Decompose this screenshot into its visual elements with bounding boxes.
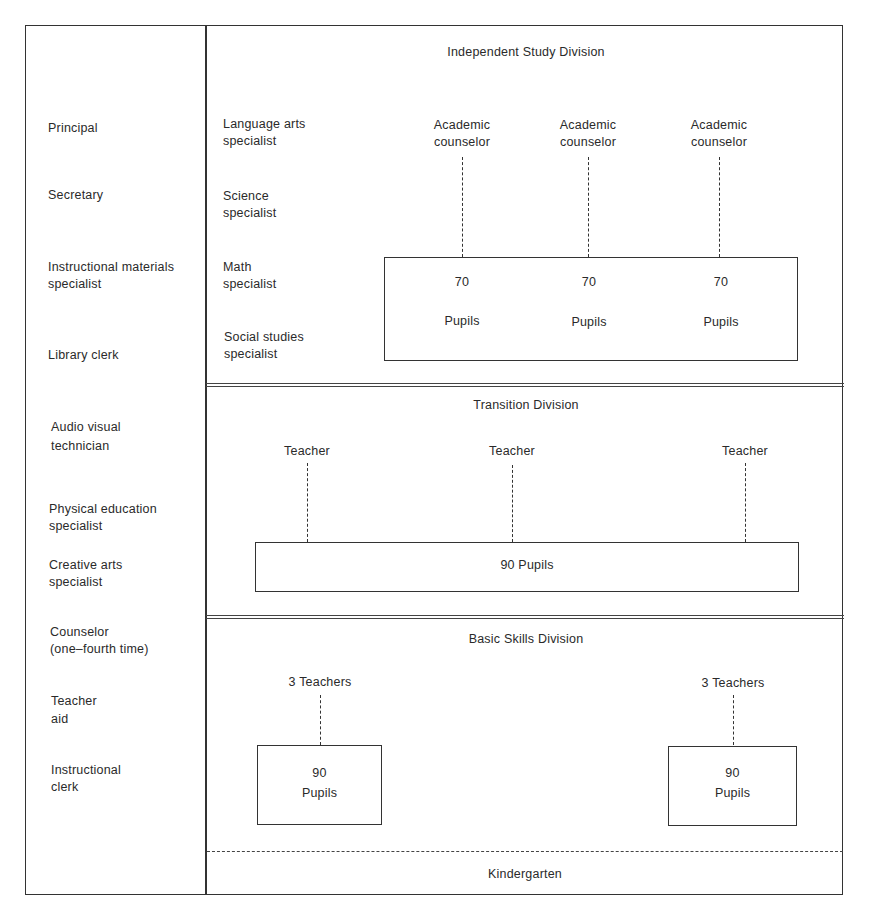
pupil-count-1: 70	[432, 274, 492, 291]
staff-teacher-aid: Teacher aid	[51, 692, 97, 728]
basic-pupil-unit-1: Pupils	[257, 783, 382, 803]
pupil-unit-3: Pupils	[691, 314, 751, 331]
kindergarten-label: Kindergarten	[206, 866, 844, 883]
kindergarten-divider	[207, 851, 843, 852]
specialist-science: Science specialist	[223, 188, 276, 222]
pupils-group-box	[384, 257, 798, 361]
academic-counselor-2: Academic counselor	[538, 117, 638, 151]
counselor-connector-3	[719, 157, 720, 257]
transition-teacher-1: Teacher	[262, 443, 352, 460]
pupil-count-3: 70	[691, 274, 751, 291]
pupil-count-2: 70	[559, 274, 619, 291]
teacher-connector-3	[745, 463, 746, 542]
pupil-unit-2: Pupils	[559, 314, 619, 331]
teacher-connector-1	[307, 463, 308, 542]
staff-principal: Principal	[48, 120, 98, 137]
teacher-connector-2	[512, 465, 513, 542]
pupil-unit-1: Pupils	[432, 313, 492, 330]
division-title: Basic Skills Division	[306, 631, 746, 648]
basic-connector-2	[733, 695, 734, 745]
staff-creative-arts-specialist: Creative arts specialist	[49, 557, 122, 591]
transition-divider	[206, 615, 844, 619]
transition-teacher-3: Teacher	[700, 443, 790, 460]
specialist-language-arts: Language arts specialist	[223, 116, 306, 150]
academic-counselor-3: Academic counselor	[669, 117, 769, 151]
specialist-social-studies: Social studies specialist	[224, 329, 304, 363]
division-title: Transition Division	[306, 397, 746, 414]
basic-pupil-count-2: 90	[668, 763, 797, 783]
basic-teachers-2: 3 Teachers	[683, 675, 783, 692]
transition-pupils-label: 90 Pupils	[255, 557, 799, 574]
staff-physical-education-specialist: Physical education specialist	[49, 501, 157, 535]
academic-counselor-1: Academic counselor	[412, 117, 512, 151]
staff-secretary: Secretary	[48, 187, 103, 204]
independent-study-divider	[206, 383, 844, 387]
staff-column-divider	[205, 25, 207, 895]
basic-connector-1	[320, 695, 321, 745]
basic-teachers-1: 3 Teachers	[270, 674, 370, 691]
counselor-connector-2	[588, 157, 589, 257]
staff-counselor: Counselor (one–fourth time)	[50, 624, 149, 658]
basic-pupil-count-1: 90	[257, 763, 382, 783]
basic-pupil-unit-2: Pupils	[668, 783, 797, 803]
staff-instructional-materials-specialist: Instructional materials specialist	[48, 259, 174, 293]
staff-instructional-clerk: Instructional clerk	[51, 762, 121, 796]
transition-teacher-2: Teacher	[467, 443, 557, 460]
staff-audio-visual-technician: Audio visual technician	[51, 418, 121, 456]
division-title: Independent Study Division	[306, 44, 746, 61]
specialist-math: Math specialist	[223, 259, 276, 293]
staff-library-clerk: Library clerk	[48, 347, 119, 364]
counselor-connector-1	[462, 157, 463, 257]
